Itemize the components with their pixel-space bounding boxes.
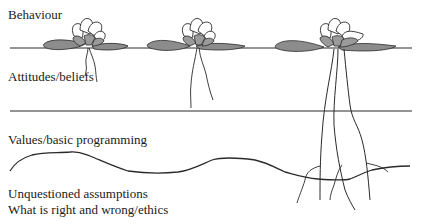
- diagram-canvas: Behaviour Attitudes/beliefs Values/basic…: [0, 0, 421, 224]
- label-unquestioned-assumptions: Unquestioned assumptions: [8, 187, 148, 201]
- label-behaviour: Behaviour: [8, 8, 62, 22]
- lily-deep-roots: [275, 18, 396, 210]
- label-values-basic-programming: Values/basic programming: [8, 133, 147, 147]
- label-right-and-wrong-ethics: What is right and wrong/ethics: [8, 203, 168, 217]
- values-boundary-wave: [10, 152, 410, 180]
- label-attitudes-beliefs: Attitudes/beliefs: [8, 70, 94, 84]
- lily-medium-roots: [147, 18, 245, 108]
